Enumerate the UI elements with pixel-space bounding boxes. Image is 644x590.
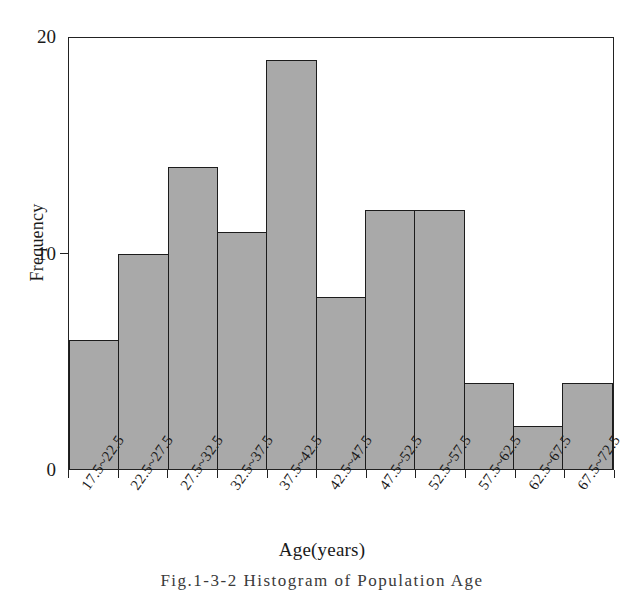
x-axis-tick [564, 470, 565, 478]
x-axis-tick [465, 470, 466, 478]
histogram-bar [217, 232, 268, 469]
x-axis-title: Age(years) [0, 539, 644, 561]
x-axis-tick [167, 470, 168, 478]
x-axis-tick [366, 470, 367, 478]
y-axis-tick-label: 0 [22, 460, 56, 479]
x-axis-tick [217, 470, 218, 478]
x-axis-tick [316, 470, 317, 478]
histogram-bar [414, 210, 465, 469]
x-axis-tick [614, 470, 615, 478]
histogram-bar [168, 167, 219, 469]
x-axis-tick [68, 470, 69, 478]
histogram-bar [365, 210, 416, 469]
plot-area [68, 37, 614, 470]
figure-histogram: Frequency 01020 17.5~22.522.5~27.527.5~3… [0, 0, 644, 590]
figure-caption: Fig.1-3-2 Histogram of Population Age [0, 571, 644, 590]
y-axis-tick-label: 10 [22, 244, 56, 263]
x-axis-tick [415, 470, 416, 478]
y-axis-tick-label: 20 [22, 27, 56, 46]
histogram-bar [266, 60, 317, 469]
x-axis-tick [118, 470, 119, 478]
x-axis-tick [267, 470, 268, 478]
x-axis-tick [515, 470, 516, 478]
bar-series [69, 38, 613, 469]
